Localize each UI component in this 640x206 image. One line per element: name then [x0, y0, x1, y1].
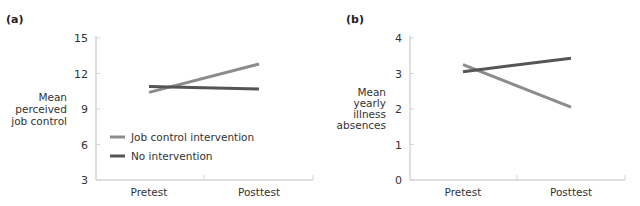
x-ticks-a: PretestPosttest: [131, 186, 281, 198]
y-axis-label-a: Mean perceived job control: [10, 91, 67, 127]
chart-panel-b: (b) Mean yearly illness absences 01234 P…: [337, 13, 625, 198]
x-ticks-b: PretestPosttest: [445, 186, 593, 198]
data-lines-a: [149, 64, 259, 92]
y-ticks-b: 01234: [395, 32, 402, 187]
x-tick-label: Pretest: [131, 186, 168, 198]
axes-b: [410, 36, 625, 180]
series-line-no-intervention: [463, 58, 571, 71]
svg-text:Mean: Mean: [38, 91, 67, 103]
y-tick-label: 2: [395, 103, 402, 116]
y-tick-label: 0: [395, 174, 402, 187]
x-tick-label: Pretest: [445, 186, 482, 198]
y-tick-label: 12: [74, 68, 88, 81]
y-tick-label: 3: [81, 174, 88, 187]
y-tick-label: 1: [395, 139, 402, 152]
y-tick-label: 6: [81, 139, 88, 152]
legend-label-no-intervention: No intervention: [131, 150, 213, 162]
y-tick-label: 3: [395, 68, 402, 81]
svg-text:job control: job control: [10, 115, 67, 127]
legend-label-job-control: Job control intervention: [130, 131, 254, 143]
svg-text:absences: absences: [337, 119, 386, 131]
x-tick-label: Posttest: [550, 186, 592, 198]
chart-panel-a: (a) Mean perceived job control 3691215 P…: [6, 13, 313, 198]
y-tick-label: 15: [74, 32, 88, 45]
legend: Job control intervention No intervention: [110, 131, 254, 162]
panel-b-label: (b): [346, 13, 364, 26]
x-tick-label: Posttest: [238, 186, 280, 198]
y-axis-label-b: Mean yearly illness absences: [337, 86, 386, 131]
y-tick-label: 4: [395, 32, 402, 45]
panel-a-label: (a): [6, 13, 23, 26]
data-lines-b: [463, 58, 571, 107]
y-ticks-a: 3691215: [74, 32, 88, 187]
svg-text:perceived: perceived: [15, 103, 67, 115]
y-tick-label: 9: [81, 103, 88, 116]
figure: (a) Mean perceived job control 3691215 P…: [0, 0, 640, 206]
